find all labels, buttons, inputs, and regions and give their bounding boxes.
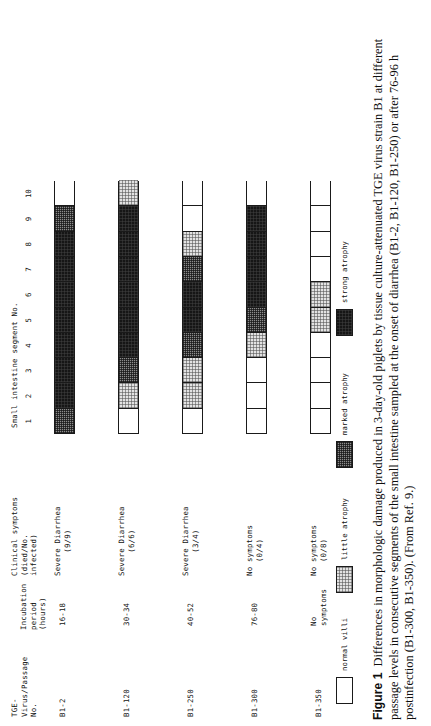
segment-cell	[183, 408, 202, 433]
row-incubation-label: 30-34	[122, 603, 132, 626]
segment-tick-10: 10	[24, 187, 33, 201]
segment-cell	[247, 357, 266, 382]
segment-cell	[119, 332, 138, 357]
segment-tick-2: 2	[24, 389, 33, 403]
segment-cell	[119, 256, 138, 281]
segment-cell	[311, 180, 330, 205]
segment-cell	[119, 357, 138, 382]
segment-cell	[247, 205, 266, 230]
clinical-ratio-text: (3/4)	[191, 506, 201, 576]
segment-cell	[55, 332, 74, 357]
segment-cell	[55, 307, 74, 332]
row-strain-label: B1-300	[250, 689, 260, 717]
legend-label-strong: strong atrophy	[340, 241, 349, 303]
segment-cell	[55, 180, 74, 205]
segment-cell	[247, 382, 266, 407]
segment-cell	[183, 256, 202, 281]
column-header-strain: TGE- Virus/Passage No.	[10, 657, 39, 717]
segment-cell	[183, 332, 202, 357]
figure-caption-text: Differences in morphologic damage produc…	[371, 39, 416, 720]
segment-cell	[119, 408, 138, 433]
segment-cell	[183, 307, 202, 332]
segment-cell	[311, 408, 330, 433]
segment-tick-4: 4	[24, 338, 33, 352]
segment-cell	[311, 205, 330, 230]
segment-cell	[119, 231, 138, 256]
row-strain-label: B1-2	[58, 698, 68, 717]
segment-cell	[311, 332, 330, 357]
row-strain-label: B1-350	[314, 689, 324, 717]
segment-cell	[55, 382, 74, 407]
segment-cell	[247, 281, 266, 306]
row-strain-label: B1-250	[186, 689, 196, 717]
segment-cell	[183, 205, 202, 230]
segment-cell	[183, 357, 202, 382]
intestine-bar	[118, 181, 139, 434]
segment-cell	[311, 382, 330, 407]
segment-cell	[183, 281, 202, 306]
legend-swatch-normal	[336, 677, 353, 704]
segment-tick-9: 9	[24, 212, 33, 226]
row-clinical-label: Severe Diarrhea(6/6)	[117, 506, 137, 576]
legend-label-normal: normal villi	[340, 618, 349, 671]
column-header-clinical: Clinical symptoms (died/No. infected)	[10, 497, 39, 576]
segment-cell	[119, 180, 138, 205]
segment-cell	[183, 231, 202, 256]
figure-canvas: TGE- Virus/Passage No. Incubation period…	[0, 0, 431, 726]
segment-cell	[119, 307, 138, 332]
row-clinical-label: No symptoms(0/4)	[245, 525, 265, 576]
clinical-ratio-text: (0/4)	[255, 525, 265, 576]
intestine-bar	[54, 181, 75, 434]
segment-cell	[247, 256, 266, 281]
segment-cell	[247, 180, 266, 205]
segment-cell	[119, 205, 138, 230]
segment-cell	[55, 205, 74, 230]
segment-cell	[247, 408, 266, 433]
segment-cell	[119, 382, 138, 407]
row-incubation-label: 16-18	[58, 603, 68, 626]
segment-tick-8: 8	[24, 237, 33, 251]
segment-cell	[247, 307, 266, 332]
segment-cell	[311, 307, 330, 332]
segment-cell	[55, 231, 74, 256]
column-header-incubation: Incubation period (hours)	[19, 584, 48, 631]
segment-cell	[119, 281, 138, 306]
intestine-bar	[246, 181, 267, 434]
segment-tick-1: 1	[24, 414, 33, 428]
segment-tick-5: 5	[24, 313, 33, 327]
clinical-symptom-text: No symptoms	[309, 525, 319, 576]
row-clinical-label: Severe Diarrhea(3/4)	[181, 506, 201, 576]
segment-tick-7: 7	[24, 263, 33, 277]
clinical-ratio-text: (0/8)	[319, 525, 329, 576]
legend-swatch-little	[336, 566, 353, 593]
legend-label-little: little atrophy	[340, 498, 349, 560]
legend-swatch-marked	[336, 441, 353, 468]
segment-cell	[311, 357, 330, 382]
clinical-symptom-text: No symptoms	[245, 525, 255, 576]
row-incubation-label: 76-80	[250, 603, 260, 626]
intestine-bar	[310, 181, 331, 434]
figure-number: Figure 1	[371, 673, 385, 720]
row-clinical-label: No symptoms(0/8)	[309, 525, 329, 576]
legend-swatch-strong	[336, 309, 353, 336]
figure-caption: Figure 1 Differences in morphologic dama…	[371, 4, 418, 720]
row-strain-label: B1-120	[122, 689, 132, 717]
clinical-symptom-text: Severe Diarrhea	[181, 506, 191, 576]
segment-cell	[55, 256, 74, 281]
segment-cell	[55, 281, 74, 306]
row-incubation-label: 40-52	[186, 603, 196, 626]
segment-cell	[311, 256, 330, 281]
segment-cell	[247, 231, 266, 256]
clinical-ratio-text: (9/9)	[63, 506, 73, 576]
segment-cell	[183, 180, 202, 205]
axis-label-segment: Small intestine segment No.	[10, 302, 20, 428]
segment-cell	[247, 332, 266, 357]
clinical-symptom-text: Severe Diarrhea	[53, 506, 63, 576]
segment-cell	[55, 408, 74, 433]
legend-label-marked: marked atrophy	[340, 373, 349, 435]
segment-cell	[55, 357, 74, 382]
row-incubation-label: No symptoms	[309, 589, 329, 626]
segment-cell	[311, 281, 330, 306]
clinical-symptom-text: Severe Diarrhea	[117, 506, 127, 576]
intestine-bar	[182, 181, 203, 434]
